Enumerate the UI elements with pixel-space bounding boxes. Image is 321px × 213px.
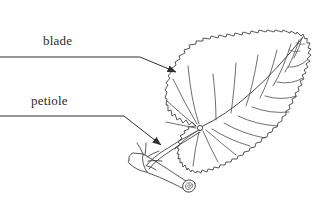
twig-bud-scale	[137, 143, 143, 154]
twig-node-ring	[143, 154, 148, 172]
leaf-blade-group	[165, 30, 311, 173]
label-petiole: petiole	[31, 93, 68, 109]
twig-bud-scale	[145, 143, 146, 155]
leaf-base-node	[197, 125, 202, 130]
blade-arrow	[140, 57, 176, 72]
callout-lines-group	[0, 57, 176, 145]
twig-bud-scale	[147, 151, 159, 157]
twig-bud-scale	[148, 161, 162, 162]
twig-left-end	[128, 160, 130, 164]
leaf-diagram-figure: blade petiole	[0, 0, 321, 213]
twig-bottom-edge	[130, 164, 186, 190]
leaf-blade-outline	[165, 30, 311, 173]
label-blade: blade	[43, 33, 72, 49]
twig-bud-scale	[147, 166, 156, 170]
petiole-arrow	[124, 116, 161, 145]
